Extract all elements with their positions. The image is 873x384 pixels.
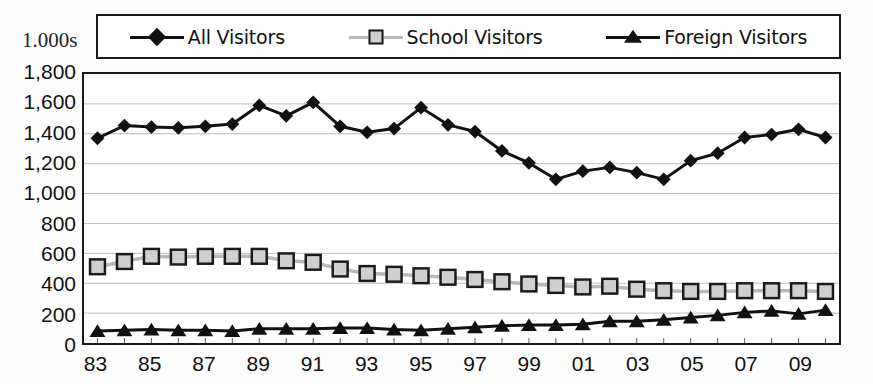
series-all-visitors: [91, 95, 833, 186]
plot-area: [82, 72, 841, 345]
series-line: [97, 102, 825, 179]
y-axis-tick-label: 800: [2, 212, 76, 236]
x-axis-tick-label: 83: [84, 352, 107, 376]
x-axis-tick-label: 87: [192, 352, 215, 376]
data-point-square[interactable]: [387, 267, 402, 282]
data-point-square[interactable]: [548, 278, 563, 293]
legend-item-foreign-visitors[interactable]: Foreign Visitors: [606, 26, 807, 48]
data-point-square[interactable]: [117, 254, 132, 269]
data-point-square[interactable]: [764, 283, 779, 298]
y-axis-tick-label: 1,400: [2, 121, 76, 145]
data-point-diamond[interactable]: [630, 166, 644, 180]
x-axis-tick-label: 01: [572, 352, 595, 376]
y-axis-tick-label: 1,200: [2, 151, 76, 175]
y-axis-tick-label: 0: [2, 333, 76, 357]
data-point-diamond[interactable]: [711, 146, 725, 160]
diamond-marker-icon: [130, 27, 184, 47]
data-point-square[interactable]: [468, 272, 483, 287]
data-point-diamond[interactable]: [279, 109, 293, 123]
data-point-diamond[interactable]: [576, 164, 590, 178]
chart-container: 1.000s All Visitors School Visitors Fore…: [0, 0, 873, 384]
data-point-square[interactable]: [521, 277, 536, 292]
data-point-diamond[interactable]: [360, 125, 374, 139]
data-point-diamond[interactable]: [171, 121, 185, 135]
legend-label-foreign-visitors: Foreign Visitors: [664, 26, 807, 48]
data-point-square[interactable]: [171, 250, 186, 265]
chart-svg: [84, 74, 839, 343]
legend-item-school-visitors[interactable]: School Visitors: [349, 26, 543, 48]
data-point-diamond[interactable]: [522, 156, 536, 170]
data-point-square[interactable]: [818, 284, 833, 299]
x-axis-tick-label: 99: [518, 352, 541, 376]
data-point-diamond[interactable]: [765, 128, 779, 142]
data-point-square[interactable]: [144, 249, 159, 264]
chart-legend: All Visitors School Visitors Foreign Vis…: [96, 14, 841, 59]
data-point-diamond[interactable]: [603, 161, 617, 175]
data-point-diamond[interactable]: [819, 131, 833, 145]
data-point-square[interactable]: [414, 268, 429, 283]
x-axis-tick-label: 93: [355, 352, 378, 376]
legend-item-all-visitors[interactable]: All Visitors: [130, 26, 285, 48]
series-school-visitors: [90, 249, 833, 299]
data-point-square[interactable]: [629, 282, 644, 297]
x-axis-tick-label: 85: [138, 352, 161, 376]
legend-label-school-visitors: School Visitors: [407, 26, 543, 48]
x-axis-tick-label: 03: [626, 352, 649, 376]
x-axis-tick-label: 89: [247, 352, 270, 376]
data-point-square[interactable]: [791, 283, 806, 298]
data-point-square[interactable]: [602, 279, 617, 294]
y-axis-tick-label: 600: [2, 242, 76, 266]
data-point-square[interactable]: [252, 249, 267, 264]
data-point-square[interactable]: [279, 253, 294, 268]
y-axis-tick-label: 1,800: [2, 60, 76, 84]
data-point-square[interactable]: [441, 270, 456, 285]
data-point-diamond[interactable]: [198, 119, 212, 133]
data-point-square[interactable]: [360, 266, 375, 281]
data-point-square[interactable]: [575, 280, 590, 295]
data-point-square[interactable]: [710, 284, 725, 299]
data-point-diamond[interactable]: [738, 131, 752, 145]
x-axis-tick-label: 97: [463, 352, 486, 376]
y-axis-tick-labels: 1,8001,6001,4001,2001,0008006004002000: [0, 0, 76, 384]
x-axis-tick-label: 07: [734, 352, 757, 376]
legend-label-all-visitors: All Visitors: [188, 26, 285, 48]
data-point-square[interactable]: [90, 259, 105, 274]
data-point-square[interactable]: [683, 284, 698, 299]
data-point-square[interactable]: [225, 249, 240, 264]
data-point-square[interactable]: [656, 283, 671, 298]
triangle-marker-icon: [606, 27, 660, 47]
x-axis-tick-label: 09: [789, 352, 812, 376]
data-point-diamond[interactable]: [549, 172, 563, 186]
data-point-square[interactable]: [494, 274, 509, 289]
x-axis-tick-label: 05: [680, 352, 703, 376]
y-axis-tick-label: 1,600: [2, 90, 76, 114]
x-axis-tick-label: 95: [409, 352, 432, 376]
data-point-square[interactable]: [333, 262, 348, 277]
data-point-diamond[interactable]: [117, 119, 131, 133]
y-axis-tick-label: 200: [2, 303, 76, 327]
series-foreign-visitors: [90, 303, 834, 337]
y-axis-tick-label: 400: [2, 272, 76, 296]
data-point-square[interactable]: [306, 255, 321, 270]
x-axis-tick-label: 91: [301, 352, 324, 376]
data-point-square[interactable]: [737, 283, 752, 298]
data-point-square[interactable]: [198, 249, 213, 264]
data-point-diamond[interactable]: [144, 120, 158, 134]
square-marker-icon: [349, 27, 403, 47]
y-axis-tick-label: 1,000: [2, 181, 76, 205]
